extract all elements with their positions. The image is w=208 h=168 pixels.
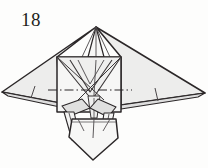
lower-tail-group (69, 119, 118, 160)
top-apex-spike-group (82, 27, 110, 57)
origami-step-figure: 18 (0, 0, 208, 168)
step-number-label: 18 (21, 10, 41, 30)
